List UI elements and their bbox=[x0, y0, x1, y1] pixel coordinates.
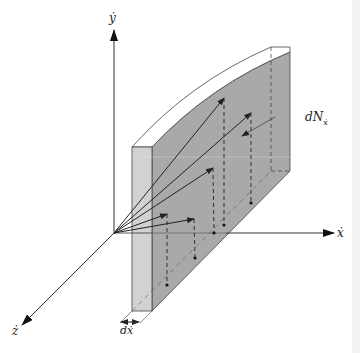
z-axis bbox=[22, 233, 114, 325]
diagram-canvas: ẏ ẋ ż dẋ dNẋ bbox=[0, 0, 360, 353]
number-density-label: dNẋ bbox=[305, 110, 328, 127]
x-axis-label: ẋ bbox=[337, 226, 344, 240]
slab-diagram: ẏ ẋ ż dẋ dNẋ bbox=[0, 0, 360, 353]
y-axis-label: ẏ bbox=[108, 11, 116, 25]
thickness-dimension bbox=[120, 311, 152, 323]
thickness-label: dẋ bbox=[120, 324, 134, 337]
slab-element bbox=[132, 47, 290, 311]
z-axis-label: ż bbox=[11, 324, 19, 338]
